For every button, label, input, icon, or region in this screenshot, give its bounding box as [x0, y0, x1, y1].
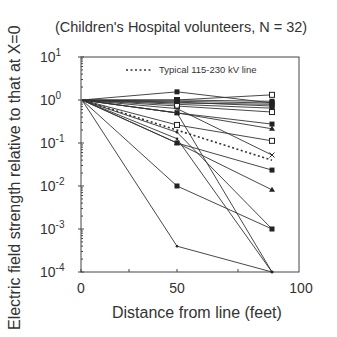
dot-marker: [176, 137, 179, 140]
axis-ticks: [78, 57, 238, 272]
y-tick-label: 10-4: [40, 262, 65, 280]
dot-marker: [176, 112, 179, 115]
square-marker: [270, 227, 275, 232]
x-tick-label: 50: [169, 280, 185, 296]
square-marker: [175, 89, 180, 94]
x-tick-label: 0: [77, 280, 85, 296]
y-tick-label: 10-3: [40, 219, 65, 237]
dot-marker: [176, 245, 179, 248]
dot-marker: [271, 271, 274, 274]
y-tick-label: 10-2: [40, 176, 65, 194]
y-tick-labels: 10110010-110-210-310-4: [40, 47, 65, 280]
dot-marker: [176, 131, 179, 134]
open-square-marker: [175, 104, 180, 109]
x-axis-title: Distance from line (feet): [112, 304, 282, 321]
legend-label: Typical 115-230 kV line: [159, 64, 257, 75]
square-marker: [175, 184, 180, 189]
legend: Typical 115-230 kV line: [126, 64, 257, 75]
x-tick-label: 100: [289, 280, 313, 296]
x-tick-labels: 050100: [77, 280, 313, 296]
y-axis-title: Electric field strength relative to that…: [6, 25, 23, 330]
triangle-marker: [269, 187, 275, 192]
open-square-marker: [270, 110, 275, 115]
open-square-marker: [175, 122, 180, 127]
y-tick-label: 101: [40, 47, 62, 65]
volunteer-series: [82, 100, 272, 229]
plot-frame: [81, 57, 299, 272]
chart: (Children's Hospital volunteers, N = 32)…: [0, 0, 337, 337]
volunteer-series: [82, 100, 272, 229]
data-series: [82, 89, 275, 273]
chart-subtitle: (Children's Hospital volunteers, N = 32): [55, 19, 307, 35]
open-square-marker: [270, 138, 275, 143]
square-marker: [270, 168, 275, 173]
y-tick-label: 10-1: [40, 133, 65, 151]
y-tick-label: 100: [40, 90, 62, 108]
open-square-marker: [270, 92, 275, 97]
